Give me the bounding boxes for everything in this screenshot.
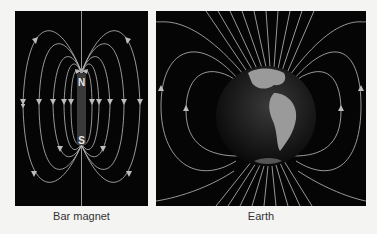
- earth-panel: [156, 11, 366, 206]
- earth-caption: Earth: [156, 210, 366, 222]
- bar-magnet-field-diagram: N S: [15, 11, 148, 206]
- bar-magnet-caption: Bar magnet: [15, 210, 148, 222]
- earth-field-diagram: [156, 11, 366, 206]
- bar-magnet-panel: N S: [15, 11, 148, 206]
- south-pole-label: S: [78, 135, 85, 146]
- north-pole-label: N: [78, 77, 85, 88]
